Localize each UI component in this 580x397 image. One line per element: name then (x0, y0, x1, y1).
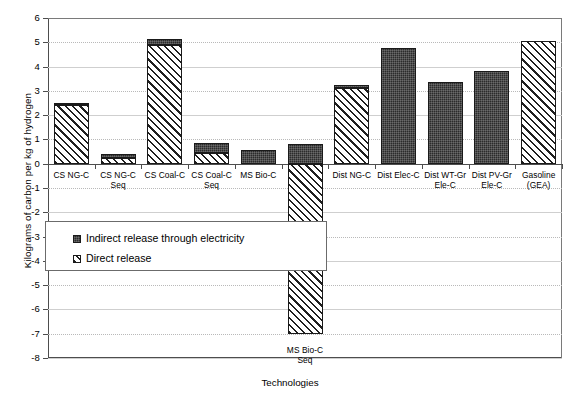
bar-segment-indirect (241, 150, 276, 164)
x-axis-tick-mark (235, 164, 236, 169)
y-axis-tick-label: 0 (0, 159, 40, 169)
y-axis-tick-mark (43, 309, 48, 310)
y-axis-tick-label: 5 (0, 37, 40, 47)
legend-item: Direct release (73, 253, 151, 264)
chart-legend: Indirect release through electricityDire… (45, 221, 327, 271)
y-axis-tick-label: -2 (0, 207, 40, 217)
y-axis-tick-mark (43, 285, 48, 286)
x-axis-tick-mark (282, 164, 283, 169)
x-axis-label-line: CS NG-C (95, 170, 142, 180)
y-axis-tick-mark (43, 18, 48, 19)
y-axis-tick-label: -1 (0, 183, 40, 193)
legend-swatch-icon (73, 255, 81, 263)
bar-segment-direct (194, 153, 229, 164)
x-axis-tick-mark (328, 164, 329, 169)
x-axis-category-label: CS NG-C (48, 170, 95, 180)
x-axis-tick-mark (515, 164, 516, 169)
x-axis-title: Technologies (0, 377, 580, 388)
bar-segment-direct (147, 45, 182, 164)
x-axis-category-label: CS NG-CSeq (95, 170, 142, 190)
carbon-release-bar-chart: Kilograms of carbon per kg of hydrogen 6… (0, 0, 580, 397)
x-axis-label-line: Dist NG-C (328, 170, 375, 180)
bar-segment-indirect (288, 144, 323, 163)
x-axis-label-line: Dist PV-Gr (469, 170, 516, 180)
x-axis-category-label: Dist WT-GrEle-C (422, 170, 469, 190)
y-axis-tick-mark (43, 212, 48, 213)
y-axis-tick-mark (43, 115, 48, 116)
y-axis-tick-mark (43, 91, 48, 92)
x-axis-label-line: Ele-C (469, 180, 516, 190)
gridline (48, 42, 562, 43)
x-axis-label-line: Gasoline (515, 170, 562, 180)
x-axis-category-label: CS Coal-C (141, 170, 188, 180)
x-axis-label-line: Seq (95, 180, 142, 190)
x-axis-tick-mark (469, 164, 470, 169)
bar-segment-direct (334, 88, 369, 163)
bar-segment-direct (521, 41, 556, 164)
y-axis-tick-label: -8 (0, 353, 40, 363)
x-axis-label-line: CS Coal-C (141, 170, 188, 180)
y-axis-tick-mark (43, 139, 48, 140)
x-axis-tick-mark (95, 164, 96, 169)
x-axis-category-label: Dist NG-C (328, 170, 375, 180)
x-axis-category-label: CS Coal-CSeq (188, 170, 235, 190)
y-axis-tick-mark (43, 188, 48, 189)
y-axis-tick-label: 6 (0, 13, 40, 23)
bar-segment-indirect (147, 39, 182, 44)
y-axis-tick-mark (43, 358, 48, 359)
gridline (48, 67, 562, 68)
bar-segment-indirect (381, 48, 416, 163)
y-axis-tick-label: 4 (0, 62, 40, 72)
x-axis-category-label: MS Bio-C (235, 170, 282, 180)
x-axis-label-line: MS Bio-C (235, 170, 282, 180)
x-axis-tick-mark (188, 164, 189, 169)
x-axis-tick-mark (375, 164, 376, 169)
legend-label: Indirect release through electricity (86, 233, 244, 244)
x-axis-category-label: Dist PV-GrEle-C (469, 170, 516, 190)
y-axis-tick-label: -6 (0, 304, 40, 314)
bar-segment-indirect (334, 85, 369, 89)
x-axis-tick-mark (422, 164, 423, 169)
x-axis-label-line: (GEA) (515, 180, 562, 190)
bar-segment-indirect (101, 154, 136, 158)
x-axis-label-line: Dist Elec-C (375, 170, 422, 180)
legend-swatch-icon (73, 235, 81, 243)
y-axis-tick-mark (43, 67, 48, 68)
y-axis-tick-mark (43, 334, 48, 335)
x-axis-label-line: CS NG-C (48, 170, 95, 180)
bar-segment-indirect (474, 71, 509, 163)
y-axis-tick-mark (43, 42, 48, 43)
x-axis-category-label: Dist Elec-C (375, 170, 422, 180)
y-axis-tick-label: -3 (0, 232, 40, 242)
y-axis-tick-label: -7 (0, 329, 40, 339)
x-axis-tick-mark (562, 164, 563, 169)
bar-segment-direct (101, 158, 136, 164)
y-axis-tick-label: 2 (0, 110, 40, 120)
bar-segment-indirect (194, 143, 229, 153)
legend-item: Indirect release through electricity (73, 233, 244, 244)
x-axis-tick-mark (48, 164, 49, 169)
x-axis-label-line: CS Coal-C (188, 170, 235, 180)
y-axis-tick-label: 1 (0, 134, 40, 144)
x-axis-label-line: Ele-C (422, 180, 469, 190)
x-axis-label-line: Dist WT-Gr (422, 170, 469, 180)
plot-border-top (48, 18, 562, 19)
bar-segment-indirect (54, 103, 89, 105)
bar-segment-indirect (428, 82, 463, 163)
x-axis-category-label: MS Bio-C Seq (282, 345, 329, 365)
x-axis-label-line: Seq (188, 180, 235, 190)
gridline (48, 334, 562, 335)
x-axis-label-line: MS Bio-C Seq (282, 345, 329, 365)
x-axis-category-label: Gasoline(GEA) (515, 170, 562, 190)
x-axis-tick-mark (141, 164, 142, 169)
y-axis-tick-label: -4 (0, 256, 40, 266)
y-axis-tick-label: -5 (0, 280, 40, 290)
bar-segment-direct (54, 105, 89, 164)
legend-label: Direct release (86, 253, 151, 264)
y-axis-tick-label: 3 (0, 86, 40, 96)
